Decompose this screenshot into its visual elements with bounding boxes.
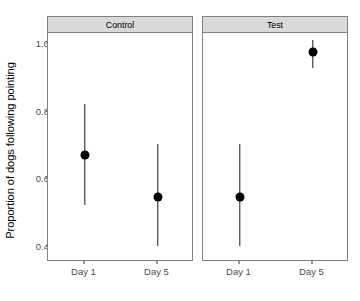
x-tick-label: Day 1 xyxy=(71,266,96,277)
data-point xyxy=(153,192,162,201)
x-tick-mark xyxy=(156,261,157,264)
data-point xyxy=(308,48,317,57)
x-tick-label: Day 5 xyxy=(144,266,169,277)
chart-root: Proportion of dogs following pointing 0.… xyxy=(0,0,360,301)
data-point xyxy=(235,192,244,201)
facet-strip-label-test: Test xyxy=(202,16,348,33)
x-tick-mark xyxy=(83,261,84,264)
y-axis-title: Proportion of dogs following pointing xyxy=(0,0,20,301)
panel-body-test xyxy=(202,33,348,261)
panel-body-control xyxy=(47,33,193,261)
data-point xyxy=(80,150,89,159)
facet-strip-label-control: Control xyxy=(47,16,193,33)
x-tick-label: Day 5 xyxy=(299,266,324,277)
x-tick-label: Day 1 xyxy=(226,266,251,277)
facet-panel-test: Test xyxy=(202,16,348,261)
y-axis-ticks: 0.40.60.81.0 xyxy=(21,0,49,301)
x-tick-mark xyxy=(311,261,312,264)
facet-panel-control: Control xyxy=(47,16,193,261)
x-tick-mark xyxy=(238,261,239,264)
